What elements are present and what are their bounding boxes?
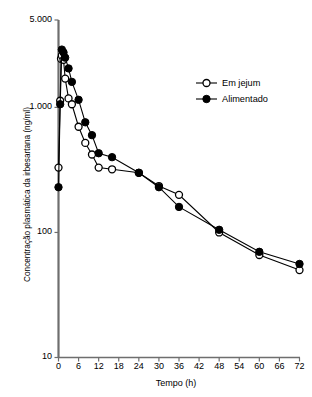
data-point-open-circle bbox=[62, 75, 69, 82]
legend-label-alimentado: Alimentado bbox=[222, 94, 268, 104]
data-point-filled-circle bbox=[108, 153, 115, 160]
chart-canvas bbox=[0, 0, 312, 397]
data-point-filled-circle bbox=[65, 65, 72, 72]
y-tick-label: 1.000 bbox=[8, 101, 52, 111]
data-point-filled-circle bbox=[215, 226, 222, 233]
legend-marker-filled-circle bbox=[203, 95, 210, 102]
data-point-open-circle bbox=[75, 123, 82, 130]
y-tick-label: 100 bbox=[8, 226, 52, 236]
x-tick-label: 66 bbox=[269, 361, 289, 371]
x-tick-label: 48 bbox=[209, 361, 229, 371]
data-point-filled-circle bbox=[56, 101, 63, 108]
legend-markers bbox=[196, 80, 217, 103]
data-point-filled-circle bbox=[256, 248, 263, 255]
data-point-filled-circle bbox=[82, 119, 89, 126]
x-tick-label: 36 bbox=[169, 361, 189, 371]
y-tick-label: 10 bbox=[8, 351, 52, 361]
y-tick-label: 5.000 bbox=[8, 14, 52, 24]
x-tick-label: 6 bbox=[69, 361, 89, 371]
x-tick-label: 18 bbox=[109, 361, 129, 371]
x-tick-label: 12 bbox=[89, 361, 109, 371]
x-axis-title: Tempo (h) bbox=[0, 378, 312, 388]
legend-marker-open-circle bbox=[203, 80, 210, 87]
data-point-filled-circle bbox=[61, 54, 68, 61]
data-point-filled-circle bbox=[155, 184, 162, 191]
data-point-filled-circle bbox=[296, 260, 303, 267]
x-tick-label: 42 bbox=[189, 361, 209, 371]
data-point-filled-circle bbox=[75, 96, 82, 103]
data-point-open-circle bbox=[95, 164, 102, 171]
data-point-open-circle bbox=[109, 166, 116, 173]
data-point-open-circle bbox=[88, 151, 95, 158]
y-axis-title: Concentração plasmática da irbesartana (… bbox=[23, 50, 32, 340]
x-tick-label: 54 bbox=[229, 361, 249, 371]
data-point-open-circle bbox=[68, 101, 75, 108]
x-tick-label: 72 bbox=[290, 361, 310, 371]
x-tick-label: 60 bbox=[249, 361, 269, 371]
data-point-filled-circle bbox=[88, 131, 95, 138]
data-point-open-circle bbox=[82, 139, 89, 146]
axis-lines bbox=[58, 20, 300, 358]
x-axis-title-text: Tempo (h) bbox=[156, 378, 197, 388]
data-series-layer bbox=[55, 46, 303, 274]
x-tick-label: 30 bbox=[149, 361, 169, 371]
data-point-filled-circle bbox=[68, 78, 75, 85]
legend-label-em-jejum: Em jejum bbox=[222, 78, 260, 88]
data-point-filled-circle bbox=[55, 184, 62, 191]
x-tick-label: 24 bbox=[129, 361, 149, 371]
series-line-em-jejum bbox=[59, 56, 300, 271]
data-point-filled-circle bbox=[175, 203, 182, 210]
data-point-filled-circle bbox=[95, 150, 102, 157]
data-point-filled-circle bbox=[135, 169, 142, 176]
data-point-open-circle bbox=[176, 191, 183, 198]
x-tick-label: 0 bbox=[49, 361, 69, 371]
